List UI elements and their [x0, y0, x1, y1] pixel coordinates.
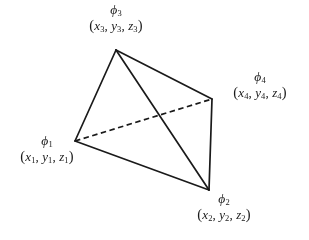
phi2-symbol: ϕ2: [168, 192, 280, 206]
phi3-symbol: ϕ3: [60, 3, 172, 17]
phi2-subscript: 2: [225, 197, 229, 207]
phi4-coordinates: (x4, y4, z4): [212, 85, 308, 100]
phi4-subscript: 4: [261, 75, 265, 85]
vertex-label-phi1: ϕ1 (x1, y1, z1): [0, 134, 94, 165]
vertex-label-phi3: ϕ3 (x3, y3, z3): [60, 3, 172, 34]
edge-phi3-phi4: [116, 50, 212, 99]
phi1-coordinates: (x1, y1, z1): [0, 149, 94, 164]
edge-phi3-phi1: [75, 50, 116, 141]
vertex-label-phi2: ϕ2 (x2, y2, z2): [168, 192, 280, 223]
phi1-subscript: 1: [48, 139, 52, 149]
edge-phi1-phi2: [75, 141, 209, 190]
phi2-coordinates: (x2, y2, z2): [168, 207, 280, 222]
phi4-symbol: ϕ4: [212, 70, 308, 84]
figure-canvas: ϕ3 (x3, y3, z3) ϕ4 (x4, y4, z4) ϕ1 (x1, …: [0, 0, 309, 240]
phi1-symbol: ϕ1: [0, 134, 94, 148]
vertex-label-phi4: ϕ4 (x4, y4, z4): [212, 70, 308, 101]
edge-phi1-phi4: [75, 99, 212, 141]
edge-phi3-phi2: [116, 50, 209, 190]
phi3-coordinates: (x3, y3, z3): [60, 18, 172, 33]
phi3-subscript: 3: [117, 8, 121, 18]
edge-phi4-phi2: [209, 99, 212, 190]
